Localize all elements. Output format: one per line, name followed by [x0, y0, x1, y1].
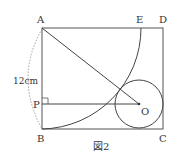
point-o: [138, 103, 141, 106]
geometry-figure: A E D P O B C 12cm 図2: [0, 0, 178, 158]
length-label: 12cm: [13, 76, 38, 86]
label-p: P: [33, 99, 40, 110]
quarter-arc-be: [42, 28, 141, 129]
label-o: O: [141, 106, 149, 117]
label-e: E: [136, 14, 143, 25]
right-angle-marker: [42, 98, 48, 104]
label-d: D: [159, 14, 167, 25]
label-c: C: [159, 133, 167, 144]
figure-caption: 図2: [93, 141, 109, 152]
label-a: A: [36, 14, 45, 25]
segment-ao: [42, 28, 139, 104]
label-b: B: [37, 133, 44, 144]
